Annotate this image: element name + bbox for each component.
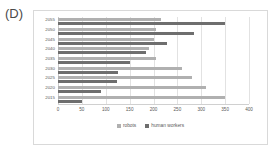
y-tick-label-2015: 2015: [45, 95, 55, 100]
figure-panel: (D) 205520502045204020352030202520202015…: [0, 0, 274, 151]
x-tick-label-0: 0: [57, 107, 60, 112]
bar-human-workers-2050: [58, 32, 194, 35]
bar-human-workers-2020: [58, 90, 101, 93]
bar-group-2035: 2035: [58, 57, 249, 64]
x-tick-label-100: 100: [102, 107, 110, 112]
y-tick-label-2045: 2045: [45, 37, 55, 42]
bar-robots-2050: [58, 28, 156, 31]
bar-human-workers-2040: [58, 51, 146, 54]
bar-group-2050: 2050: [58, 28, 249, 35]
bar-robots-2030: [58, 67, 182, 70]
x-axis-tick-labels: 050100150200250300350400: [58, 107, 249, 117]
x-tick-label-300: 300: [197, 107, 205, 112]
bar-rows: 205520502045204020352030202520202015: [58, 17, 249, 104]
bar-human-workers-2030: [58, 71, 118, 74]
x-tick-label-400: 400: [245, 107, 253, 112]
y-tick-label-2035: 2035: [45, 56, 55, 61]
bar-group-2055: 2055: [58, 18, 249, 25]
bar-robots-2020: [58, 86, 206, 89]
x-tick-label-50: 50: [79, 107, 84, 112]
bar-robots-2040: [58, 47, 149, 50]
x-axis-line: [58, 104, 249, 105]
gridline-400: [249, 17, 250, 104]
y-tick-label-2030: 2030: [45, 66, 55, 71]
x-tick-label-150: 150: [126, 107, 134, 112]
bar-group-2045: 2045: [58, 38, 249, 45]
bar-group-2030: 2030: [58, 67, 249, 74]
panel-letter: (D): [5, 6, 23, 21]
bar-robots-2055: [58, 18, 161, 21]
chart-legend: robotshuman workers: [34, 123, 267, 128]
plot-area: 205520502045204020352030202520202015: [58, 17, 249, 104]
y-tick-label-2020: 2020: [45, 85, 55, 90]
bar-group-2025: 2025: [58, 76, 249, 83]
bar-robots-2025: [58, 76, 192, 79]
bar-human-workers-2035: [58, 61, 130, 64]
legend-item-robots[interactable]: robots: [117, 123, 136, 128]
bar-group-2020: 2020: [58, 86, 249, 93]
bar-group-2040: 2040: [58, 47, 249, 54]
legend-label: robots: [123, 123, 136, 128]
bar-human-workers-2055: [58, 22, 225, 25]
legend-item-human-workers[interactable]: human workers: [145, 123, 184, 128]
bar-group-2015: 2015: [58, 96, 249, 103]
x-tick-label-200: 200: [150, 107, 158, 112]
x-tick-label-350: 350: [221, 107, 229, 112]
y-tick-label-2025: 2025: [45, 75, 55, 80]
bar-robots-2015: [58, 96, 225, 99]
chart-frame: 205520502045204020352030202520202015 050…: [33, 10, 268, 145]
bar-robots-2045: [58, 38, 154, 41]
bar-human-workers-2045: [58, 42, 167, 45]
legend-label: human workers: [151, 123, 184, 128]
y-tick-label-2055: 2055: [45, 17, 55, 22]
bar-human-workers-2015: [58, 100, 82, 103]
x-tick-label-250: 250: [174, 107, 182, 112]
y-tick-label-2050: 2050: [45, 27, 55, 32]
y-tick-label-2040: 2040: [45, 46, 55, 51]
bar-human-workers-2025: [58, 80, 117, 83]
bar-robots-2035: [58, 57, 156, 60]
legend-swatch-icon: [117, 124, 121, 128]
legend-swatch-icon: [145, 124, 149, 128]
